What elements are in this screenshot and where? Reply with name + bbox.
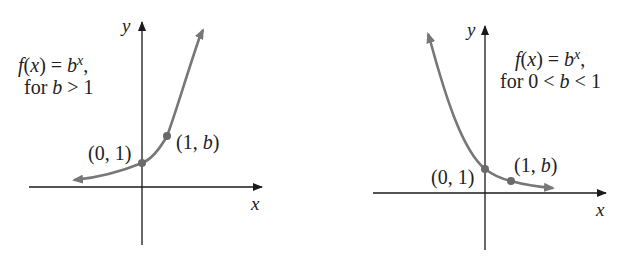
point-0-1 — [481, 165, 489, 173]
y-axis-label: y — [465, 19, 476, 40]
point-0-1-label: (0, 1) — [88, 142, 131, 165]
point-0-1-label: (0, 1) — [431, 166, 474, 189]
point-0-1 — [138, 159, 146, 167]
point-1-b-label: (1, b) — [176, 131, 219, 154]
function-title: f(x) = bx, — [515, 47, 585, 71]
x-axis-label: x — [595, 199, 605, 220]
y-axis-label: y — [120, 15, 131, 36]
point-1-b — [507, 177, 515, 185]
x-axis-label: x — [250, 193, 260, 214]
graph-growth: y x f(x) = bx, for b > 1 (0, 1) (1, b) — [18, 15, 262, 245]
function-condition: for b > 1 — [24, 76, 94, 98]
point-1-b — [163, 132, 171, 140]
exponential-graphs-diagram: y x f(x) = bx, for b > 1 (0, 1) (1, b) y… — [0, 0, 617, 274]
point-1-b-label: (1, b) — [514, 154, 557, 177]
function-title: f(x) = bx, — [18, 53, 88, 77]
function-condition: for 0 < b < 1 — [500, 70, 601, 92]
graph-decay: y x f(x) = bx, for 0 < b < 1 (0, 1) (1, … — [373, 19, 606, 250]
